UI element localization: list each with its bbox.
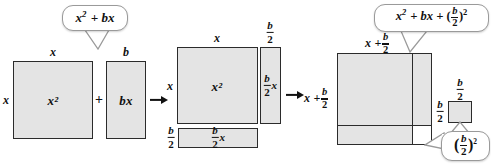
callout-x2-plus-bx-text: x2 + bx: [76, 9, 115, 26]
callout-b-over-2-squared-text: ( b 2 )2: [454, 134, 477, 158]
panel1-bx-top-label: b: [123, 46, 129, 58]
panel1-square-left-label: x: [3, 94, 9, 106]
panel1-bx-interior-label: bx: [119, 94, 132, 107]
panel1-square-interior-label: x²: [48, 94, 59, 107]
callout-completed-square: x2 + bx + ( b 2 )2: [374, 4, 489, 32]
panel2-right-strip-top-label: b 2: [266, 21, 275, 45]
panel2-square-interior-label: x²: [212, 80, 223, 93]
panel2-square-left-label: x: [167, 80, 173, 92]
callout-b-over-2-squared: ( b 2 )2: [441, 131, 490, 161]
panel2-right-strip-interior-label: b 2 x: [263, 74, 277, 98]
plus-sign: +: [95, 93, 103, 107]
panel3-horizontal-divider: [337, 125, 432, 126]
detached-b-over-2-square: [448, 101, 472, 123]
callout-completed-square-text: x2 + bx + ( b 2 )2: [396, 6, 468, 29]
figure-canvas: x2 + bx x² x x + bx b x² x x: [0, 0, 491, 164]
panel3-left-label: x + b 2: [304, 88, 329, 111]
panel1-square-top-label: x: [50, 46, 56, 58]
panel3-vertical-divider: [412, 53, 413, 145]
panel2-bottom-strip-left-label: b 2: [167, 126, 176, 150]
panel2-square-top-label: x: [214, 32, 220, 44]
panel2-bottom-strip-interior-label: b 2 x: [211, 126, 225, 150]
detached-square-left-label: b 2: [436, 100, 445, 124]
detached-square-top-label: b 2: [456, 78, 465, 102]
callout-completed-square-tail: [400, 29, 430, 53]
callout-x2-plus-bx: x2 + bx: [62, 5, 128, 31]
callout-x2-plus-bx-tail: [84, 28, 112, 50]
